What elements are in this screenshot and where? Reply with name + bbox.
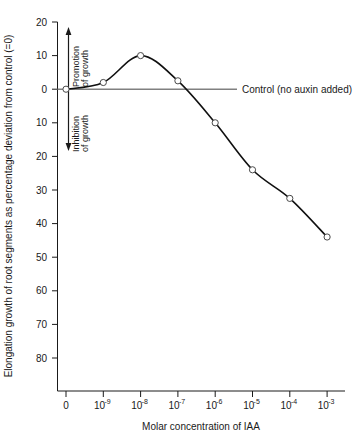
chart-background xyxy=(0,0,357,437)
chart-svg: 20 10 0 10 20 30 40 50 60 70 80 0 10 xyxy=(0,0,357,437)
x-tick-label: 0 xyxy=(63,400,69,411)
y-tick-label: 70 xyxy=(36,319,48,330)
y-axis-title: Elongation growth of root segments as pe… xyxy=(3,35,14,378)
data-point-marker xyxy=(138,53,144,59)
x-axis-title: Molar concentration of IAA xyxy=(142,421,260,432)
y-tick-label: 50 xyxy=(36,252,48,263)
x-tick-exponent: -7 xyxy=(179,398,185,405)
y-tick-label: 20 xyxy=(36,17,48,28)
x-tick-exponent: -6 xyxy=(216,398,222,405)
x-tick-exponent: -5 xyxy=(254,398,260,405)
y-tick-label: 40 xyxy=(36,218,48,229)
x-tick-exponent: -8 xyxy=(142,398,148,405)
data-point-marker xyxy=(287,195,293,201)
control-line-label: Control (no auxin added) xyxy=(242,84,352,95)
y-tick-label: 0 xyxy=(41,84,47,95)
chart-figure: 20 10 0 10 20 30 40 50 60 70 80 0 10 xyxy=(0,0,357,437)
x-tick-exponent: -3 xyxy=(328,398,334,405)
y-tick-label: 60 xyxy=(36,285,48,296)
inhibition-label-line2: of growth xyxy=(80,115,90,152)
data-point-marker xyxy=(63,86,69,92)
x-tick-exponent: -4 xyxy=(291,398,297,405)
y-tick-label: 10 xyxy=(36,50,48,61)
promotion-label-line2: of growth xyxy=(80,50,90,87)
y-tick-label: 20 xyxy=(36,151,48,162)
x-tick-exponent: -9 xyxy=(104,398,110,405)
y-tick-label: 10 xyxy=(36,117,48,128)
data-point-marker xyxy=(324,234,330,240)
data-point-marker xyxy=(100,79,106,85)
y-tick-label: 30 xyxy=(36,185,48,196)
data-point-marker xyxy=(212,120,218,126)
data-point-marker xyxy=(249,167,255,173)
y-tick-label: 80 xyxy=(36,353,48,364)
data-point-marker xyxy=(175,78,181,84)
